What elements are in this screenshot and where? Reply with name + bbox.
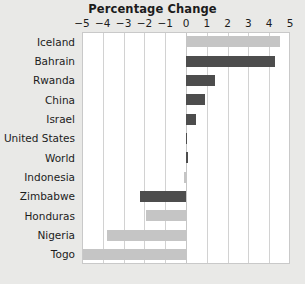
gridline [228, 32, 229, 264]
x-axis-tick-labels: −5−4−3−2−1012345 [0, 17, 305, 31]
category-label: Iceland [0, 37, 75, 47]
bar [186, 56, 275, 67]
category-label: Togo [0, 249, 75, 259]
category-label: Zimbabwe [0, 191, 75, 201]
plot-area [82, 32, 290, 264]
category-label: Bahrain [0, 56, 75, 66]
chart-title: Percentage Change [0, 2, 305, 16]
x-tick-label: 5 [278, 17, 302, 29]
bar [186, 94, 205, 105]
gridline [82, 32, 83, 264]
category-label: Nigeria [0, 230, 75, 240]
category-label: Israel [0, 114, 75, 124]
category-label: Honduras [0, 211, 75, 221]
gridline [269, 32, 270, 264]
category-label: United States [0, 133, 75, 143]
bar [184, 172, 186, 183]
gridline [207, 32, 208, 264]
category-label: Indonesia [0, 172, 75, 182]
gridline [289, 32, 290, 264]
bar [186, 36, 280, 47]
bar [82, 249, 186, 260]
gridline [248, 32, 249, 264]
gridline [103, 32, 104, 264]
bar [140, 191, 186, 202]
zero-gridline [186, 32, 187, 264]
bar [107, 230, 186, 241]
bar [186, 75, 215, 86]
category-label: China [0, 95, 75, 105]
bar [186, 152, 188, 163]
bar [146, 210, 186, 221]
bar [186, 133, 187, 144]
bar [186, 114, 196, 125]
category-label: Rwanda [0, 75, 75, 85]
percentage-change-bar-chart: Percentage Change −5−4−3−2−1012345 Icela… [0, 0, 305, 284]
category-label: World [0, 153, 75, 163]
